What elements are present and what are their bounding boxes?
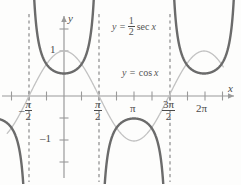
fraction-denominator: 2 — [94, 111, 102, 122]
cos-equation-label: y = cos x — [122, 68, 158, 78]
x-tick-label-two-pi: 2π — [196, 103, 207, 114]
sec-function-name: sec — [137, 22, 150, 32]
x-tick-label-half-pi: π 2 — [94, 99, 102, 122]
cos-variable: x — [154, 68, 158, 78]
y-tick-label-neg-one: –1 — [40, 133, 51, 144]
sec-equation-label: y = 1 2 sec x — [112, 16, 156, 37]
cos-function-name: cos — [139, 68, 152, 78]
fraction-denominator: 2 — [128, 27, 135, 37]
y-axis-arrowhead — [61, 16, 67, 22]
x-axis-arrowhead — [228, 93, 234, 99]
x-tick-label-neg-half-pi: – π 2 — [19, 99, 32, 122]
cos-equation-lhs: y = — [122, 68, 136, 78]
y-tick-label-one: 1 — [50, 44, 56, 55]
secant-branch-middle — [103, 119, 165, 185]
fraction-denominator: 2 — [162, 111, 175, 122]
sec-equation-lhs: y = — [112, 22, 126, 32]
secant-branch-right — [173, 0, 235, 74]
secant-cosine-graph-figure: y x 1 –1 – π 2 π 2 π 3π 2 2π y = 1 — [0, 0, 241, 184]
axes-group — [2, 16, 234, 178]
y-axis-label: y — [68, 13, 73, 24]
secant-branch-left — [0, 119, 25, 185]
sec-variable: x — [151, 22, 155, 32]
x-axis-label: x — [228, 83, 233, 94]
x-tick-label-three-half-pi: 3π 2 — [162, 99, 175, 122]
x-tick-label-pi: π — [130, 103, 136, 114]
fraction-denominator: 2 — [25, 111, 33, 122]
